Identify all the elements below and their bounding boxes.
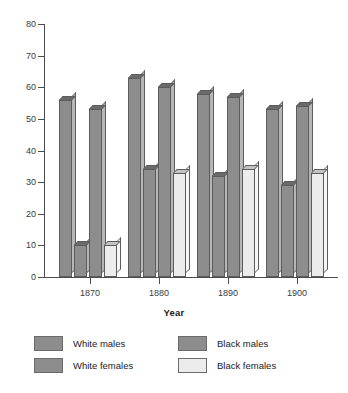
y-tick-label: 40 (10, 147, 36, 156)
bar-face (311, 173, 324, 277)
legend-item: White females (34, 358, 133, 373)
bar-side (324, 165, 328, 273)
y-tick-label: 50 (10, 115, 36, 124)
y-tick-mark (38, 56, 45, 57)
legend-label: Black males (217, 338, 268, 349)
y-tick-label: 10 (10, 241, 36, 250)
y-tick-mark (38, 182, 45, 183)
y-tick-label: 60 (10, 83, 36, 92)
bar (143, 169, 156, 277)
chart-legend: White malesWhite femalesBlack malesBlack… (0, 330, 348, 385)
bar (197, 94, 210, 277)
legend-swatch (34, 336, 63, 351)
x-tick-mark (297, 277, 298, 284)
x-tick-label: 1870 (70, 288, 110, 298)
x-tick-mark (159, 277, 160, 284)
y-tick-label: 80 (10, 20, 36, 29)
y-tick-label: 20 (10, 210, 36, 219)
y-tick-mark (38, 151, 45, 152)
bar (89, 109, 102, 277)
bar (296, 106, 309, 277)
bar-face (59, 100, 72, 277)
y-tick-label: 0 (10, 273, 36, 282)
legend-item: Black males (178, 336, 268, 351)
bar-side (186, 165, 190, 273)
bar (266, 109, 279, 277)
legend-label: Black females (217, 360, 276, 371)
bar-face (227, 97, 240, 277)
bar (311, 173, 324, 277)
bar-chart: 80706050403020100 1870188018901900 Year … (0, 0, 348, 393)
bar (128, 78, 141, 277)
bar-face (74, 245, 87, 277)
plot-area: 80706050403020100 1870188018901900 Year (0, 0, 348, 300)
x-tick-label: 1900 (277, 288, 317, 298)
bar-face (143, 169, 156, 277)
bar-face (89, 109, 102, 277)
bar-face (242, 169, 255, 277)
bar (281, 185, 294, 277)
bar-face (212, 176, 225, 277)
bar-side (255, 161, 259, 273)
y-tick-label: 30 (10, 178, 36, 187)
bar-face (197, 94, 210, 277)
x-tick-label: 1890 (208, 288, 248, 298)
y-tick-label: 70 (10, 52, 36, 61)
bar-face (104, 245, 117, 277)
legend-label: White females (73, 360, 133, 371)
bar (227, 97, 240, 277)
y-tick-mark (38, 24, 45, 25)
x-tick-label: 1880 (139, 288, 179, 298)
y-tick-mark (38, 87, 45, 88)
legend-item: Black females (178, 358, 276, 373)
bar (158, 87, 171, 277)
bar-face (266, 109, 279, 277)
legend-label: White males (73, 338, 125, 349)
x-axis-title: Year (0, 307, 348, 318)
y-tick-mark (38, 245, 45, 246)
legend-swatch (178, 336, 207, 351)
bar (74, 245, 87, 277)
x-tick-mark (90, 277, 91, 284)
y-tick-mark (38, 214, 45, 215)
legend-item: White males (34, 336, 125, 351)
bar (59, 100, 72, 277)
bar-face (281, 185, 294, 277)
x-tick-mark (228, 277, 229, 284)
bar-face (128, 78, 141, 277)
bar (242, 169, 255, 277)
legend-swatch (34, 358, 63, 373)
bar-face (158, 87, 171, 277)
bar (104, 245, 117, 277)
bar (212, 176, 225, 277)
bar (173, 173, 186, 277)
y-tick-mark (38, 119, 45, 120)
bar-face (296, 106, 309, 277)
bar-face (173, 173, 186, 277)
legend-swatch (178, 358, 207, 373)
y-tick-mark (38, 277, 45, 278)
x-axis-line (44, 277, 338, 278)
